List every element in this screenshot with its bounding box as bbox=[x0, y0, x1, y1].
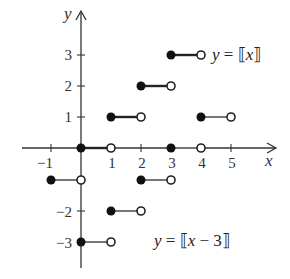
y-tick-labels: −3 −2 1 2 3 bbox=[56, 47, 72, 251]
x-axis-label: x bbox=[264, 151, 273, 170]
y-tick-label: 3 bbox=[65, 47, 73, 63]
y-axis-label: y bbox=[62, 4, 72, 23]
step-function-chart: −1 1 2 3 4 5 −3 −2 1 2 3 x y bbox=[0, 0, 290, 279]
x-tick-labels: −1 1 2 3 4 5 bbox=[37, 155, 236, 171]
x-tick-label: 5 bbox=[228, 155, 236, 171]
x-tick-label: 1 bbox=[108, 155, 116, 171]
legend-floor-x: y = ⟦x⟧ bbox=[210, 45, 261, 64]
x-tick-label: 2 bbox=[138, 155, 146, 171]
x-tick-label: 3 bbox=[168, 155, 176, 171]
series-floor-x bbox=[81, 55, 201, 148]
y-tick-label: 1 bbox=[65, 109, 73, 125]
y-tick-label: −3 bbox=[56, 235, 72, 251]
x-tick-label: 4 bbox=[198, 155, 206, 171]
y-tick-label: −2 bbox=[56, 204, 72, 220]
legend-floor-x-minus-3: y = ⟦x − 3⟧ bbox=[152, 231, 230, 250]
x-tick-label: −1 bbox=[37, 155, 53, 171]
y-tick-label: 2 bbox=[65, 78, 73, 94]
